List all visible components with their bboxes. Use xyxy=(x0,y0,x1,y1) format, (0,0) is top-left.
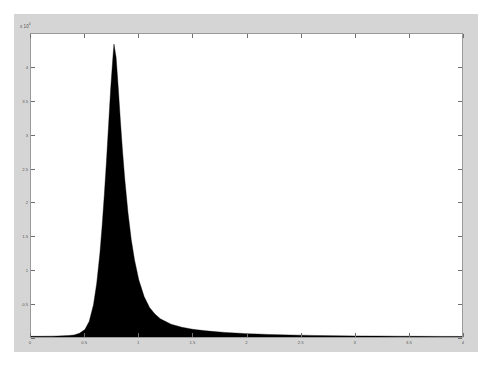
y-axis-tick-right xyxy=(458,304,462,305)
y-axis-tick xyxy=(31,135,35,136)
y-axis-tick-right xyxy=(458,67,462,68)
x-axis-tick-label: 2 xyxy=(245,340,247,345)
x-axis-tick-label: 0.5 xyxy=(81,340,87,345)
y-axis-tick xyxy=(31,236,35,237)
y-axis-tick xyxy=(31,101,35,102)
y-axis-exponent-label: x 104 xyxy=(20,22,31,29)
x-axis-tick-label: 0 xyxy=(29,340,31,345)
y-axis-tick xyxy=(31,338,35,339)
y-axis-tick-label: 1.5 xyxy=(22,234,28,239)
y-axis-exponent-power: 4 xyxy=(29,22,31,26)
x-axis-tick xyxy=(355,333,356,337)
x-axis-tick-top xyxy=(409,34,410,38)
density-area-path xyxy=(31,44,462,337)
y-axis-tick-right xyxy=(458,202,462,203)
x-axis-tick xyxy=(247,333,248,337)
x-axis-tick-top xyxy=(355,34,356,38)
x-axis-tick-label: 3.5 xyxy=(406,340,412,345)
x-axis-tick-label: 1 xyxy=(137,340,139,345)
x-axis-tick xyxy=(138,333,139,337)
y-axis-tick-label: 3.5 xyxy=(22,98,28,103)
plot-area xyxy=(30,33,463,338)
x-axis-tick-top xyxy=(301,34,302,38)
x-axis-tick-top xyxy=(84,34,85,38)
x-axis-tick-label: 1.5 xyxy=(189,340,195,345)
x-axis-tick xyxy=(463,333,464,337)
x-axis-tick xyxy=(30,333,31,337)
x-axis-tick-top xyxy=(138,34,139,38)
x-axis-tick xyxy=(192,333,193,337)
y-axis-tick-label: 3 xyxy=(26,132,28,137)
y-axis-tick-right xyxy=(458,169,462,170)
x-axis-tick-top xyxy=(30,34,31,38)
y-axis-tick-label: 1 xyxy=(26,268,28,273)
y-axis-tick-right xyxy=(458,338,462,339)
y-axis-exponent-prefix: x 10 xyxy=(20,24,29,29)
y-axis-tick-right xyxy=(458,101,462,102)
y-axis-tick-right xyxy=(458,135,462,136)
y-axis-tick xyxy=(31,67,35,68)
x-axis-tick-label: 4 xyxy=(462,340,464,345)
histogram-plot xyxy=(31,34,462,337)
x-axis-tick xyxy=(409,333,410,337)
y-axis-tick-label: 4 xyxy=(26,64,28,69)
y-axis-tick xyxy=(31,270,35,271)
x-axis-tick-top xyxy=(192,34,193,38)
x-axis-tick-top xyxy=(463,34,464,38)
figure-panel: x 104 00.511.522.533.540.511.522.533.54 xyxy=(14,14,478,352)
y-axis-tick xyxy=(31,169,35,170)
x-axis-tick xyxy=(301,333,302,337)
y-axis-tick-label: 2 xyxy=(26,200,28,205)
x-axis-tick xyxy=(84,333,85,337)
y-axis-tick xyxy=(31,202,35,203)
y-axis-tick-right xyxy=(458,236,462,237)
y-axis-tick-label: 2.5 xyxy=(22,166,28,171)
x-axis-tick-label: 3 xyxy=(354,340,356,345)
y-axis-tick xyxy=(31,304,35,305)
y-axis-tick-label: 0.5 xyxy=(22,302,28,307)
x-axis-tick-top xyxy=(247,34,248,38)
y-axis-tick-right xyxy=(458,270,462,271)
x-axis-tick-label: 2.5 xyxy=(298,340,304,345)
